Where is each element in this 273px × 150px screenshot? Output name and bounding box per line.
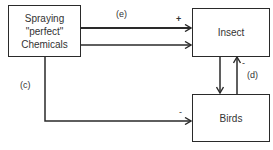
edge-spray-birds [45,56,191,121]
node-insect-label: Insect [218,26,245,39]
edge-sign-minus-insect: - [242,58,245,68]
node-spraying-line1: Spraying [25,12,64,25]
edge-sign-minus-birds: - [179,107,182,117]
node-birds-label: Birds [220,112,243,125]
node-birds: Birds [192,94,270,142]
node-insect: Insect [192,8,270,57]
edge-sign-plus: + [176,14,181,24]
node-spraying-chemicals: Spraying "perfect" Chemicals [8,5,81,57]
edge-label-c: (c) [20,80,31,90]
node-spraying-line3: Chemicals [21,38,68,51]
node-spraying-line2: "perfect" [26,25,64,38]
edge-label-d: (d) [247,70,258,80]
edge-label-e: (e) [116,9,127,19]
